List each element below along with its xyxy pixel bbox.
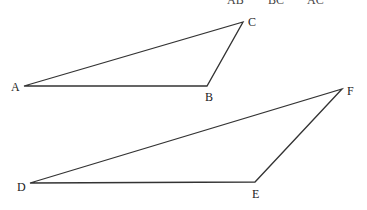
triangle-def	[30, 89, 342, 183]
vertex-label-f: F	[347, 84, 354, 98]
vertex-label-b: B	[205, 90, 213, 104]
vertex-label-e: E	[252, 187, 259, 201]
header-term-ac: AC	[307, 0, 324, 7]
vertex-label-d: D	[17, 180, 26, 194]
header-term-ab: AB	[227, 0, 244, 7]
vertex-label-a: A	[11, 80, 20, 94]
triangles-diagram: AB BC AC A B C D E F	[0, 0, 367, 210]
vertex-label-c: C	[248, 15, 256, 29]
triangle-abc	[24, 22, 243, 86]
header-term-bc: BC	[268, 0, 284, 7]
